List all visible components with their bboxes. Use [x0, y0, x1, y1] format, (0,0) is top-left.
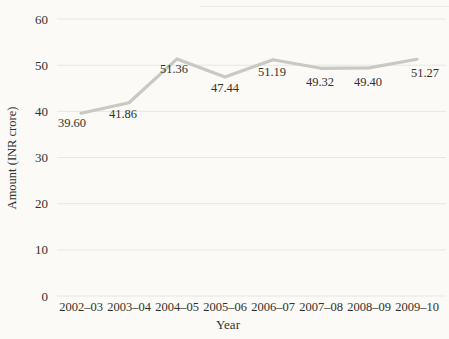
data-label-6: 49.40: [354, 75, 382, 89]
x-axis-tick-label-3: 2005–06: [203, 300, 247, 314]
x-axis-tick-label-1: 2003–04: [107, 300, 152, 314]
scanned-book-page: 0102030405060Amount (INR crore)2002–0320…: [0, 0, 449, 339]
y-axis-tick-label-10: 10: [35, 242, 48, 257]
x-axis-tick-label-7: 2009–10: [395, 300, 439, 314]
x-axis-tick-label-4: 2006–07: [251, 300, 295, 314]
data-label-7: 51.27: [411, 66, 439, 80]
line-chart: 0102030405060Amount (INR crore)2002–0320…: [0, 0, 449, 339]
y-axis-title: Amount (INR crore): [5, 107, 19, 210]
x-axis-tick-label-5: 2007–08: [299, 300, 343, 314]
data-label-3: 47.44: [211, 81, 240, 95]
scan-artifact-line: [200, 6, 449, 7]
y-axis-tick-label-40: 40: [35, 104, 48, 119]
data-label-1: 41.86: [109, 107, 137, 121]
x-axis-tick-label-0: 2002–03: [59, 300, 103, 314]
y-axis-tick-label-0: 0: [42, 289, 49, 304]
y-axis-tick-label-50: 50: [35, 58, 48, 73]
line-chart-figure: 0102030405060Amount (INR crore)2002–0320…: [0, 0, 449, 339]
y-axis-tick-label-60: 60: [35, 12, 48, 27]
x-axis-title: Year: [216, 317, 241, 332]
x-axis-tick-label-2: 2004–05: [155, 300, 199, 314]
data-label-5: 49.32: [306, 75, 334, 89]
data-label-4: 51.19: [258, 65, 286, 79]
y-axis-tick-label-20: 20: [35, 196, 48, 211]
data-label-2: 51.36: [160, 62, 188, 76]
y-axis-tick-label-30: 30: [35, 150, 48, 165]
x-axis-tick-label-6: 2008–09: [347, 300, 391, 314]
data-label-0: 39.60: [58, 116, 86, 130]
